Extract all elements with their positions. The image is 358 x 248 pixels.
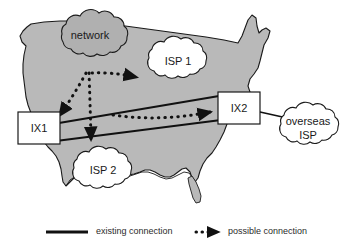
network-diagram: network ISP 1 ISP 2 overseas ISP: [0, 0, 358, 248]
legend-item-existing: existing connection: [46, 226, 173, 236]
legend-item-possible: possible connection: [196, 226, 307, 236]
cloud-isp2-label: ISP 2: [90, 164, 117, 176]
diagram-canvas: network ISP 1 ISP 2 overseas ISP: [0, 0, 358, 248]
cloud-overseas-isp-label-line2: ISP: [299, 129, 317, 141]
legend: existing connection possible connection: [46, 226, 307, 236]
cloud-isp1-label: ISP 1: [165, 55, 192, 67]
florida-detail: [188, 176, 201, 203]
cloud-network-label: network: [71, 29, 110, 41]
cloud-network: network: [61, 10, 127, 57]
cloud-overseas-isp-label-line1: overseas: [286, 115, 331, 127]
legend-existing-label: existing connection: [96, 226, 173, 236]
box-ix1-label: IX1: [31, 122, 48, 134]
legend-possible-label: possible connection: [228, 226, 307, 236]
box-ix2[interactable]: IX2: [218, 92, 260, 124]
cloud-overseas-isp: overseas ISP: [280, 102, 339, 144]
box-ix2-label: IX2: [231, 102, 248, 114]
box-ix1[interactable]: IX1: [18, 112, 60, 144]
